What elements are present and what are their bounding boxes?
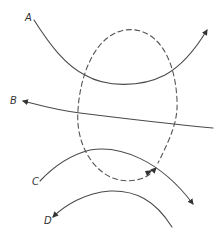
label-d: D xyxy=(44,216,52,226)
curve-b-path xyxy=(23,101,213,128)
label-a: A xyxy=(25,13,32,23)
curve-a-path xyxy=(34,20,207,84)
label-b: B xyxy=(10,96,17,106)
curve-d-path xyxy=(53,191,172,227)
diagram-canvas xyxy=(0,0,219,240)
curve-c-path xyxy=(40,149,193,204)
label-c: C xyxy=(32,177,39,187)
dashed-loop-path xyxy=(78,30,177,181)
